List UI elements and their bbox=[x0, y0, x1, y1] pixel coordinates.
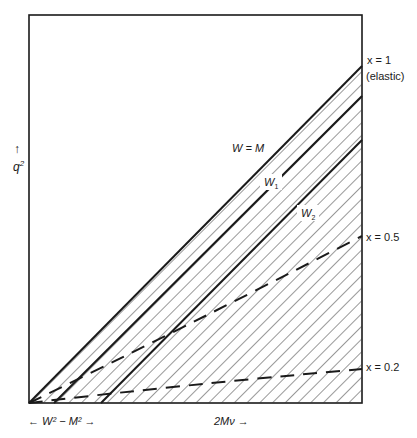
label-w1: W1 bbox=[264, 177, 278, 190]
x-axis-right-label: 2Mν → bbox=[214, 416, 249, 427]
label-x-1: x = 1 bbox=[367, 55, 391, 66]
label-elastic: (elastic) bbox=[366, 71, 405, 82]
x-axis-left-label: ← W² − M² → bbox=[28, 416, 96, 427]
y-axis-label: q2 bbox=[13, 160, 24, 173]
y-axis-arrow: ↑ bbox=[14, 143, 20, 155]
label-x-0-2: x = 0.2 bbox=[366, 362, 399, 373]
label-w-equals-m: W = M bbox=[232, 143, 264, 154]
kinematics-diagram bbox=[0, 0, 417, 438]
label-w2: W2 bbox=[301, 208, 315, 221]
label-x-0-5: x = 0.5 bbox=[366, 232, 399, 243]
